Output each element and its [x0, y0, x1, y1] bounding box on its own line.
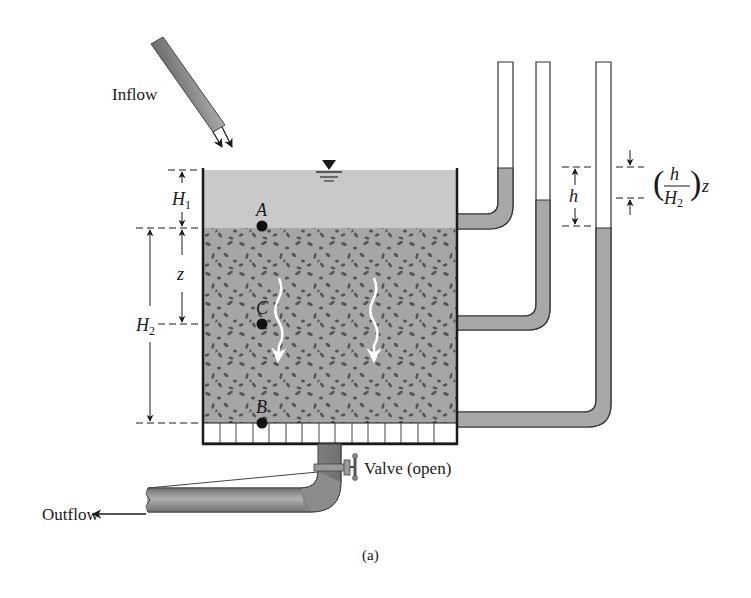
outflow-pipe — [146, 444, 341, 512]
soil-layer — [203, 228, 457, 423]
point-c: C — [256, 298, 269, 330]
point-b: B — [256, 397, 268, 429]
water-layer — [203, 170, 457, 228]
z-label: z — [176, 264, 184, 284]
point-a: A — [255, 200, 268, 232]
figure-caption: (a) — [362, 547, 379, 564]
valve-label: Valve (open) — [364, 459, 451, 478]
h2-label: H2 — [135, 315, 155, 338]
h1-label: H1 — [171, 189, 191, 212]
fraction-denominator: H2 — [663, 188, 683, 210]
h-label: h — [569, 186, 578, 206]
inflow-arrow-icon — [222, 127, 232, 147]
point-c-label: C — [256, 298, 269, 318]
diagram-canvas: Inflow — [0, 0, 751, 598]
inflow-pipe — [151, 37, 232, 147]
point-a-label: A — [255, 200, 268, 220]
svg-text:(: ( — [653, 164, 664, 202]
svg-text:): ) — [690, 164, 701, 202]
inflow-label: Inflow — [112, 85, 158, 104]
piezometer-1 — [456, 62, 513, 229]
drainage-grid — [203, 423, 457, 443]
fraction-numerator: h — [670, 164, 679, 184]
point-b-label: B — [256, 397, 267, 417]
outflow-label: Outflow — [42, 505, 99, 524]
tank — [202, 168, 458, 444]
inflow-arrow-icon — [213, 132, 222, 147]
piezometer-3 — [456, 62, 611, 427]
fraction-z: z — [701, 176, 709, 196]
head-loss-fraction: ( h H2 ) z — [653, 164, 709, 210]
